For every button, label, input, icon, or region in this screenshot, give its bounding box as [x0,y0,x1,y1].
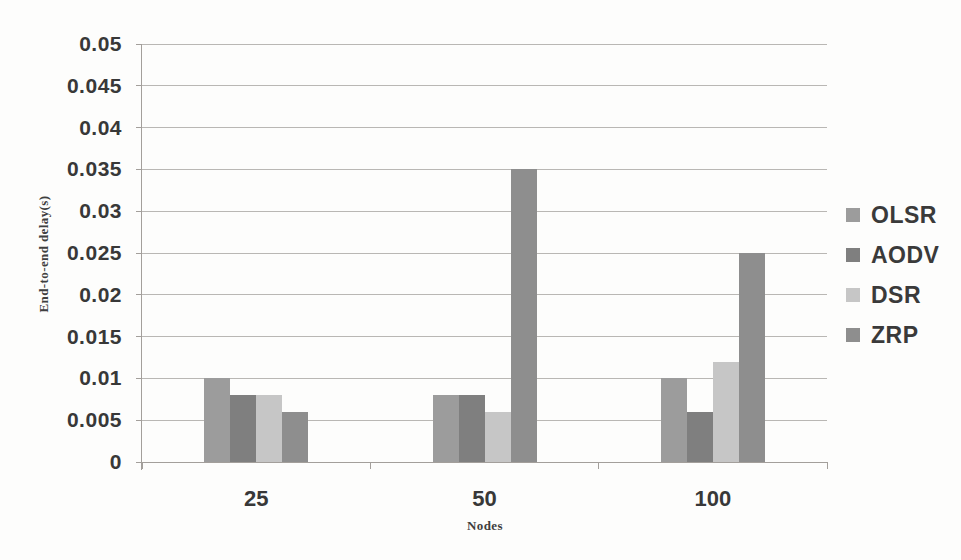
legend-item-dsr: DSR [846,282,939,308]
x-tick-label-100: 100 [653,486,773,512]
legend-item-zrp: ZRP [846,322,939,348]
gridline [142,336,827,337]
bar-olsr-100 [661,378,687,462]
x-tick-label-50: 50 [425,486,545,512]
gridline [142,127,827,128]
y-tick-label: 0.04 [27,115,122,141]
x-axis-tick [827,462,828,469]
bar-zrp-100 [739,253,765,462]
gridline [142,294,827,295]
legend-swatch-icon [846,248,860,262]
bar-dsr-50 [485,412,511,462]
x-axis-tick [370,462,371,469]
legend-item-olsr: OLSR [846,202,939,228]
bar-olsr-50 [433,395,459,462]
x-axis-title: Nodes [385,518,585,534]
legend-swatch-icon [846,328,860,342]
bar-aodv-50 [459,395,485,462]
x-axis-tick [142,462,143,469]
legend-label: DSR [871,282,921,308]
y-axis-tick [136,336,142,337]
legend-swatch-icon [846,208,860,222]
bar-zrp-50 [511,169,537,462]
y-axis-tick [136,85,142,86]
bar-aodv-100 [687,412,713,462]
bar-dsr-100 [713,362,739,462]
y-tick-label: 0.025 [27,240,122,266]
legend-label: OLSR [871,202,937,228]
y-axis-tick [136,211,142,212]
plot-area [142,44,827,462]
y-tick-label: 0.05 [27,31,122,57]
bar-chart-figure: End-to-end delay(s) Nodes OLSRAODVDSRZRP… [0,0,961,560]
y-tick-label: 0.015 [27,324,122,350]
legend-label: ZRP [871,322,919,348]
gridline [142,44,827,45]
bar-dsr-25 [256,395,282,462]
x-axis-tick [598,462,599,469]
y-tick-label: 0.03 [27,198,122,224]
y-axis-line [141,44,142,470]
y-axis-tick [136,378,142,379]
bar-olsr-25 [204,378,230,462]
legend-item-aodv: AODV [846,242,939,268]
gridline [142,253,827,254]
y-tick-label: 0.045 [27,73,122,99]
legend-label: AODV [871,242,939,268]
y-axis-tick [136,127,142,128]
bar-zrp-25 [282,412,308,462]
y-axis-tick [136,420,142,421]
y-tick-label: 0.035 [27,156,122,182]
gridline [142,169,827,170]
y-axis-tick [136,294,142,295]
y-tick-label: 0.005 [27,407,122,433]
legend-swatch-icon [846,288,860,302]
y-tick-label: 0.01 [27,365,122,391]
y-axis-tick [136,44,142,45]
gridline [142,211,827,212]
x-tick-label-25: 25 [196,486,316,512]
y-tick-label: 0 [27,449,122,475]
gridline [142,85,827,86]
bar-aodv-25 [230,395,256,462]
legend: OLSRAODVDSRZRP [846,202,939,362]
y-tick-label: 0.02 [27,282,122,308]
y-axis-tick [136,253,142,254]
y-axis-tick [136,169,142,170]
